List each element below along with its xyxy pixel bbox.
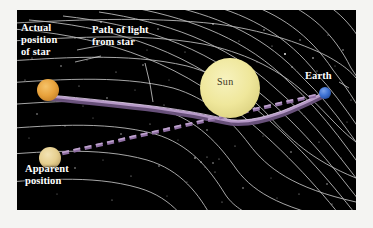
earth-label: Earth (305, 70, 332, 82)
sun-body (200, 58, 260, 118)
earth-body (319, 87, 331, 99)
actual-position-line-2: position (21, 34, 57, 46)
figure-stage: Sun Actual position of star Path of ligh… (0, 0, 373, 228)
apparent-position-label: Apparent position (25, 163, 69, 187)
sun-label: Sun (217, 76, 233, 87)
path-of-light-label: Path of light from star (92, 24, 149, 48)
path-of-light-line-1: Path of light (92, 24, 149, 36)
actual-star-body (37, 79, 59, 101)
actual-position-label: Actual position of star (21, 22, 57, 58)
path-of-light-line-2: from star (92, 36, 149, 48)
actual-position-line-3: of star (21, 46, 57, 58)
apparent-position-line-2: position (25, 175, 69, 187)
apparent-position-line-1: Apparent (25, 163, 69, 175)
actual-position-line-1: Actual (21, 22, 57, 34)
